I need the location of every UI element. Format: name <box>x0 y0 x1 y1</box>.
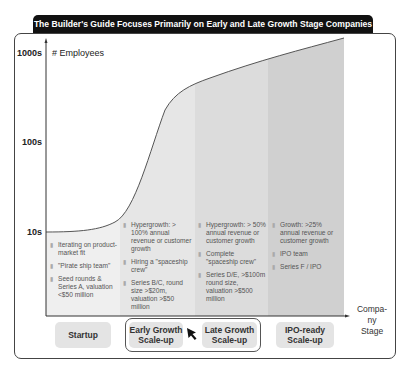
column-ipo-fill <box>268 30 344 320</box>
pin-icon: ▮ <box>123 222 127 227</box>
column-ipo-text: ▮Growth: >25% annual revenue or customer… <box>272 221 342 276</box>
y-axis-label: # Employees <box>52 48 104 58</box>
pin-icon: ▮ <box>123 259 127 264</box>
pin-icon: ▮ <box>272 264 276 269</box>
y-tick-10s: 10s <box>12 227 42 237</box>
list-item: ▮Growth: >25% annual revenue or customer… <box>272 221 342 245</box>
column-early-text: ▮Hypergrowth: > 100% annual revenue or c… <box>123 221 193 316</box>
pin-icon: ▮ <box>50 276 54 281</box>
x-axis-label: Compa- ny Stage <box>349 304 395 337</box>
pin-icon: ▮ <box>198 272 202 277</box>
pin-icon: ▮ <box>198 251 202 256</box>
pin-icon: ▮ <box>272 251 276 256</box>
list-item: ▮Series D/E, >$100m round size, valuatio… <box>198 271 266 303</box>
list-item: ▮IPO team <box>272 250 342 258</box>
pin-icon: ▮ <box>50 263 54 268</box>
y-tick-100s: 100s <box>12 137 42 147</box>
list-item: ▮Series F / IPO <box>272 263 342 271</box>
column-startup-text: ▮Iterating on product-market fit ▮"Pirat… <box>50 241 118 304</box>
pin-icon: ▮ <box>198 222 202 227</box>
y-tick-1000s: 1000s <box>12 48 42 58</box>
pin-icon: ▮ <box>272 222 276 227</box>
pin-icon: ▮ <box>123 280 127 285</box>
list-item: ▮Iterating on product-market fit <box>50 241 118 257</box>
column-late-text: ▮Hypergrowth: > 50% annual revenue or cu… <box>198 221 266 308</box>
list-item: ▮Hypergrowth: > 50% annual revenue or cu… <box>198 221 266 245</box>
list-item: ▮Complete "spaceship crew" <box>198 250 266 266</box>
arrow-pointer-icon <box>186 327 198 341</box>
stage-early-growth: Early Growth Scale-up <box>129 322 183 348</box>
list-item: ▮Hypergrowth: > 100% annual revenue or c… <box>123 221 193 253</box>
stage-startup: Startup <box>55 322 111 348</box>
list-item: ▮Seed rounds & Series A, valuation <$50 … <box>50 275 118 299</box>
list-item: ▮Series B/C, round size >$20m, valuation… <box>123 279 193 311</box>
list-item: ▮Hiring a "spaceship crew" <box>123 258 193 274</box>
list-item: ▮"Pirate ship team" <box>50 262 118 270</box>
stage-late-growth: Late Growth Scale-up <box>202 322 257 348</box>
pin-icon: ▮ <box>50 242 54 247</box>
stage-ipo-ready: IPO-ready Scale-up <box>276 322 334 348</box>
